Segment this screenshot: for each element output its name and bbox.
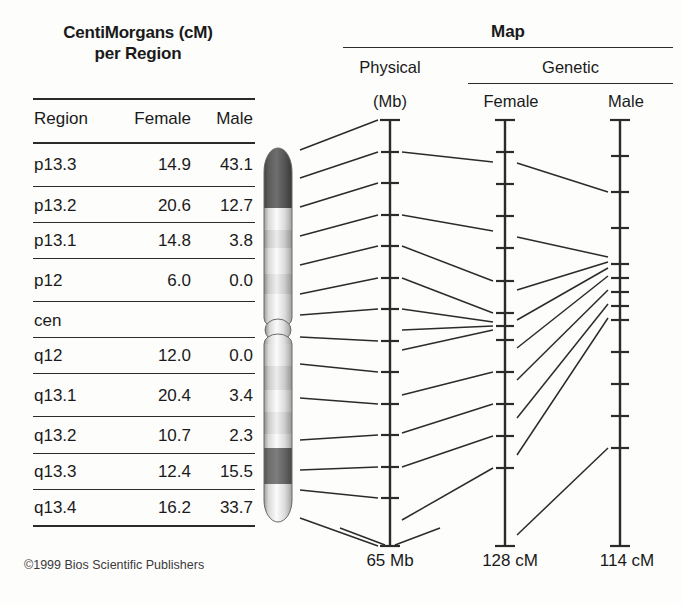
chromosome-to-physical-connectors <box>300 120 378 546</box>
chromosome-p-arm <box>263 148 293 328</box>
female-to-male-connectors <box>517 163 608 535</box>
chromosome-q-arm <box>263 334 293 524</box>
chromosome-and-map-graphics <box>0 0 682 604</box>
figure-root: CentiMorgans (cM) per Region Region Fema… <box>0 0 682 604</box>
physical-to-female-connectors <box>402 152 493 520</box>
male-genetic-axis <box>610 120 630 546</box>
physical-map-axis <box>380 120 400 546</box>
female-genetic-axis <box>495 120 515 546</box>
